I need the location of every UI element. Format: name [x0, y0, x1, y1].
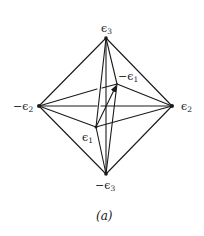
- vertex-ne2: [37, 104, 41, 108]
- label-e2: ϵ2: [181, 100, 192, 114]
- edge-e2-ne1: [117, 84, 172, 106]
- edge-e3-e1: [96, 38, 106, 127]
- edge-e2-e1: [96, 106, 172, 127]
- vertex-e1: [95, 126, 98, 129]
- vertex-e2: [170, 104, 174, 108]
- label-ne1: −ϵ1: [118, 70, 138, 84]
- edge-e3-ne1: [106, 38, 117, 84]
- label-ne2: −ϵ2: [13, 100, 33, 114]
- edge-ne2-e1: [39, 106, 96, 127]
- edge-ne3-ne2: [39, 106, 106, 174]
- label-ne3: −ϵ3: [95, 179, 115, 193]
- vertex-e3: [104, 36, 108, 40]
- edge-ne3-e2: [106, 106, 172, 174]
- octahedron-diagram: ϵ3 −ϵ3 −ϵ2 ϵ2 ϵ1 −ϵ1 (a): [0, 0, 204, 236]
- edge-ne3-ne1: [106, 84, 117, 174]
- figure-caption: (a): [96, 209, 113, 223]
- vertex-ne3: [104, 172, 108, 176]
- edge-ne3-e1: [96, 127, 106, 174]
- label-e1: ϵ1: [82, 131, 93, 145]
- label-e3: ϵ3: [101, 22, 112, 36]
